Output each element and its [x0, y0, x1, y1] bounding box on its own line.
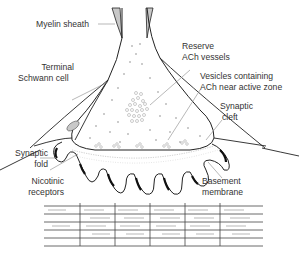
label-reserve-ach-line1: Reserve — [182, 41, 214, 52]
reserve-vesicles — [126, 92, 149, 123]
active-zone-vesicles — [95, 140, 189, 149]
label-terminal-schwann-line2: Schwann cell — [18, 73, 69, 84]
label-myelin-sheath: Myelin sheath — [36, 19, 89, 30]
axon-terminal — [72, 8, 214, 150]
label-synaptic-fold-line1: Synaptic — [4, 148, 48, 159]
myelin-sheath-left — [112, 8, 122, 38]
muscle-fibers — [44, 203, 263, 246]
label-synaptic-cleft-line2: cleft — [222, 112, 238, 123]
schwann-cell — [30, 80, 108, 148]
label-basement-line1: Basement — [202, 176, 241, 187]
label-basement-line2: membrane — [202, 187, 243, 198]
diagram-artwork — [0, 0, 299, 253]
schwann-nucleus — [65, 119, 80, 133]
label-terminal-schwann-line1: Terminal — [22, 62, 74, 73]
label-synaptic-cleft-line1: Synaptic — [220, 101, 253, 112]
label-vesicles-line1: Vesicles containing — [200, 71, 273, 82]
label-nicotinic-line2: receptors — [10, 187, 64, 198]
label-vesicles-line2: ACh near active zone — [200, 82, 282, 93]
label-nicotinic-line1: Nicotinic — [10, 176, 64, 187]
label-reserve-ach-line2: ACh vessels — [182, 52, 230, 63]
fold-thickening — [56, 148, 227, 190]
label-synaptic-fold-line2: fold — [4, 159, 48, 170]
neuromuscular-junction-diagram: Myelin sheath Reserve ACh vessels Termin… — [0, 0, 299, 253]
